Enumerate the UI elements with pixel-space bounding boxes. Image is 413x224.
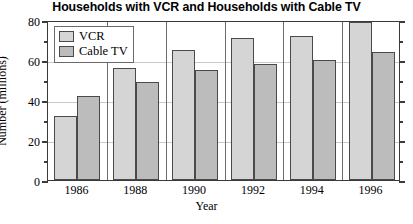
chart-title: Households with VCR and Households with … <box>0 0 413 14</box>
y-tick-major <box>42 21 48 23</box>
x-axis-divider <box>225 22 226 180</box>
bar-vcr-1988 <box>113 68 136 180</box>
y-tick-minor <box>44 121 48 123</box>
bar-cable-tv-1996 <box>372 52 395 180</box>
y-tick-minor-right <box>399 121 403 123</box>
bar-cable-tv-1994 <box>313 60 336 180</box>
legend-item-vcr: VCR <box>59 29 128 44</box>
y-tick-major <box>42 141 48 143</box>
x-axis-label-1990: 1990 <box>182 183 206 198</box>
bar-cable-tv-1992 <box>254 64 277 180</box>
legend-label-vcr: VCR <box>79 30 105 43</box>
x-axis-divider <box>342 22 343 180</box>
bar-vcr-1986 <box>54 116 77 180</box>
x-axis-label-1996: 1996 <box>359 183 383 198</box>
legend-swatch-vcr <box>59 31 74 42</box>
y-axis-label: 0 <box>34 175 40 190</box>
x-axis-label-1994: 1994 <box>300 183 324 198</box>
y-tick-minor <box>44 81 48 83</box>
chart-page: Households with VCR and Households with … <box>0 0 413 224</box>
bar-vcr-1990 <box>172 50 195 180</box>
y-tick-minor-right <box>399 81 403 83</box>
y-tick-major <box>42 101 48 103</box>
bar-cable-tv-1990 <box>195 70 218 180</box>
x-axis-label-1986: 1986 <box>64 183 88 198</box>
bar-vcr-1996 <box>349 22 372 180</box>
y-axis-label: 20 <box>28 135 40 150</box>
y-tick-minor-right <box>399 41 403 43</box>
y-axis-label: 60 <box>28 55 40 70</box>
x-axis-label-1992: 1992 <box>241 183 265 198</box>
y-tick-major-right <box>399 21 405 23</box>
y-tick-major <box>42 181 48 183</box>
y-tick-minor <box>44 161 48 163</box>
y-axis-label: 80 <box>28 15 40 30</box>
bar-vcr-1994 <box>290 36 313 180</box>
gridline <box>48 102 399 103</box>
legend-item-cable-tv: Cable TV <box>59 44 128 59</box>
gridline <box>48 142 399 143</box>
y-tick-major <box>42 61 48 63</box>
x-axis-title: Year <box>0 199 413 214</box>
y-tick-minor <box>44 41 48 43</box>
x-axis-divider <box>166 22 167 180</box>
x-axis-label-1988: 1988 <box>123 183 147 198</box>
x-axis-divider <box>283 22 284 180</box>
y-tick-minor-right <box>399 161 403 163</box>
y-axis-label: 40 <box>28 95 40 110</box>
y-tick-major-right <box>399 181 405 183</box>
legend-label-cable-tv: Cable TV <box>79 45 128 58</box>
y-tick-major-right <box>399 61 405 63</box>
bar-cable-tv-1986 <box>77 96 100 180</box>
bar-cable-tv-1988 <box>136 82 159 180</box>
bar-vcr-1992 <box>231 38 254 180</box>
legend-swatch-cable-tv <box>59 46 74 57</box>
y-axis-title: Number (millions) <box>0 56 10 146</box>
y-tick-major-right <box>399 101 405 103</box>
y-tick-major-right <box>399 141 405 143</box>
chart-legend: VCR Cable TV <box>54 26 134 63</box>
